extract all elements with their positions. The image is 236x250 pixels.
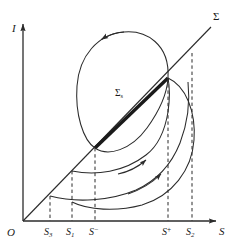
tick-s3-subscript: 3 xyxy=(49,231,52,238)
tick-label-s3: S3 xyxy=(44,227,52,239)
sigma-s-label: Σs xyxy=(115,89,123,99)
diagram-canvas xyxy=(0,0,236,250)
tick-label-s-plus: S+ xyxy=(162,227,171,237)
tick-label-s1: S1 xyxy=(66,227,74,239)
inner-upper-arrow-icon xyxy=(118,160,146,174)
outer-orbit-arrow-icon xyxy=(101,32,124,40)
tick-s2-subscript: 2 xyxy=(191,231,194,238)
tick-label-s-minus: S− xyxy=(89,227,98,237)
tick-s1-subscript: 1 xyxy=(71,231,74,238)
sigma-label: Σ xyxy=(213,11,219,22)
y-axis-label: I xyxy=(12,23,16,34)
phase-plane-figure: I S O Σ Σs S3 S1 S− S+ S2 xyxy=(0,0,236,250)
sigma-s-subscript: s xyxy=(121,92,124,99)
x-axis-label: S xyxy=(219,226,225,237)
sigma-switching-line xyxy=(23,27,211,221)
tick-s-plus-superscript: + xyxy=(167,226,171,234)
tick-s-minus-superscript: − xyxy=(94,226,98,234)
tick-label-s2: S2 xyxy=(186,227,194,239)
origin-label: O xyxy=(7,227,15,238)
